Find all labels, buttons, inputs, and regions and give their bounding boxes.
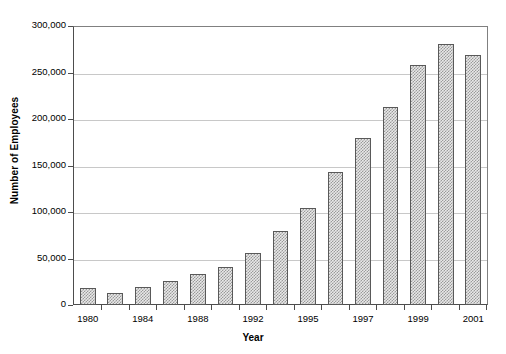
x-axis-tick-labels: 19801984198819921995199719992001 [74,312,487,328]
bar-1997 [355,138,371,305]
bar-slot [157,27,185,305]
x-tick-slot [129,305,157,311]
x-tick-slot [377,305,405,311]
bar-1990 [218,267,234,305]
y-tick-label: 250,000 [32,66,66,77]
x-tick-slot [322,305,350,311]
bar-1984 [135,287,151,305]
bar-1998 [383,107,399,305]
x-tick-label-empty [377,312,405,328]
x-tick-slot [157,305,185,311]
bar-slot [294,27,322,305]
x-tick-label-empty [432,312,460,328]
y-tick-label: 50,000 [37,252,66,263]
y-tick-label: 200,000 [32,112,66,123]
bar-slot [129,27,157,305]
bar-2000 [438,44,454,305]
bar-1992 [245,253,261,305]
x-tick-slot [239,305,267,311]
bar-1988 [190,274,206,306]
bar-1995 [300,208,316,305]
x-tick-slot [432,305,460,311]
x-tick-slot [267,305,295,311]
bar-slot [404,27,432,305]
y-tick-mark [68,305,73,306]
y-tick-label: 0 [61,298,66,309]
x-tick-mark [486,305,487,310]
bar-1986 [163,281,179,305]
bar-slot [239,27,267,305]
x-tick-slot [184,305,212,311]
bar-slot [184,27,212,305]
bar-slot [432,27,460,305]
y-axis-ticks: 050,000100,000150,000200,000250,000300,0… [0,0,73,306]
x-axis-title: Year [0,332,506,343]
bar-1999 [410,65,426,305]
bar-slot [267,27,295,305]
bar-1982 [107,293,123,305]
x-tick-label-1995: 1995 [294,312,322,328]
x-tick-label-1997: 1997 [349,312,377,328]
bar-slot [322,27,350,305]
x-tick-label-empty [157,312,185,328]
x-tick-label-1999: 1999 [404,312,432,328]
x-tick-slot [349,305,377,311]
x-tick-label-2001: 2001 [459,312,487,328]
x-axis-title-text: Year [242,332,263,343]
x-tick-slot [459,305,487,311]
x-tick-slot [404,305,432,311]
bar-1980 [80,288,96,305]
x-tick-label-empty [212,312,240,328]
bar-slot [377,27,405,305]
x-tick-label-1992: 1992 [239,312,267,328]
x-tick-label-empty [267,312,295,328]
x-tick-slot [294,305,322,311]
x-tick-label-1984: 1984 [129,312,157,328]
x-tick-label-empty [322,312,350,328]
bar-chart: Number of Employees 050,000100,000150,00… [0,0,506,354]
y-tick-label: 150,000 [32,159,66,170]
bar-slot [74,27,102,305]
x-tick-slot [212,305,240,311]
x-tick-label-1980: 1980 [74,312,102,328]
x-tick-slot [74,305,102,311]
y-tick-label: 300,000 [32,19,66,30]
bar-2001 [465,55,481,305]
x-tick-slot [102,305,130,311]
bar-slot [459,27,487,305]
bar-1993 [273,231,289,305]
bar-slot [349,27,377,305]
bar-series [74,27,487,305]
y-tick-label: 100,000 [32,205,66,216]
bar-slot [212,27,240,305]
x-tick-label-empty [102,312,130,328]
x-axis-ticks [74,305,487,311]
bar-slot [102,27,130,305]
x-tick-label-1988: 1988 [184,312,212,328]
bar-1996 [328,172,344,305]
